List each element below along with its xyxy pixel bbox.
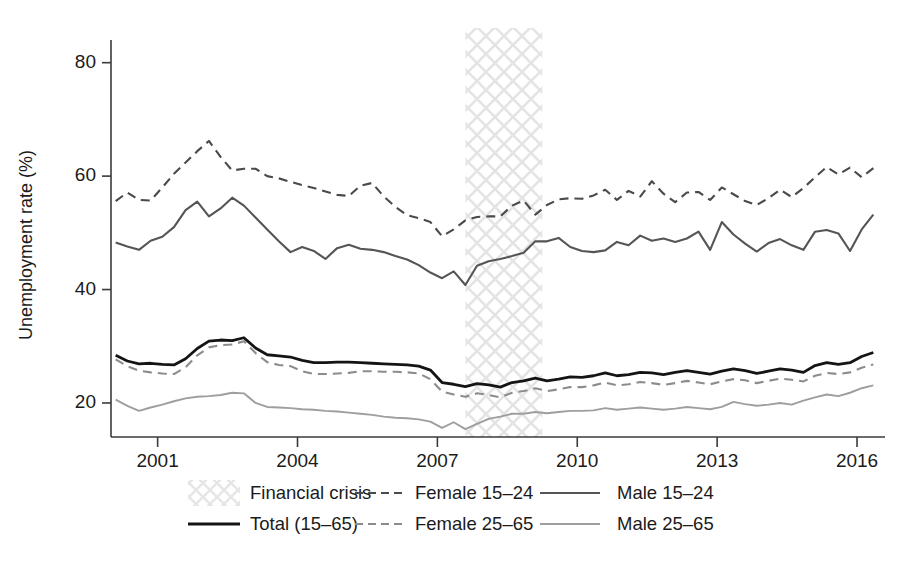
- legend-swatch-financial-crisis: [188, 480, 240, 506]
- x-tick-label-2004: 2004: [276, 450, 319, 471]
- y-tick-label-60: 60: [75, 164, 96, 185]
- x-tick-label-2001: 2001: [136, 450, 178, 471]
- crisis-band-rect: [465, 28, 542, 437]
- x-tick-label-2010: 2010: [556, 450, 598, 471]
- legend-label-female-25-65: Female 25–65: [415, 513, 533, 534]
- legend-label-male-15-24: Male 15–24: [617, 482, 714, 503]
- financial-crisis-band: [465, 28, 542, 437]
- y-axis-title: Unemployment rate (%): [16, 150, 36, 340]
- y-tick-label-80: 80: [75, 51, 96, 72]
- x-tick-label-2016: 2016: [836, 450, 878, 471]
- legend-label-male-25-65: Male 25–65: [617, 513, 714, 534]
- y-tick-label-20: 20: [75, 391, 96, 412]
- legend-label-female-15-24: Female 15–24: [415, 482, 533, 503]
- chart-figure: 20406080 200120042007201020132016 Unempl…: [0, 0, 897, 577]
- unemployment-rate-line-chart: 20406080 200120042007201020132016 Unempl…: [0, 0, 897, 577]
- x-tick-label-2007: 2007: [416, 450, 458, 471]
- legend-label-total-15-65: Total (15–65): [250, 513, 358, 534]
- y-tick-label-40: 40: [75, 278, 96, 299]
- legend-label-financial-crisis: Financial crisis: [250, 482, 371, 503]
- x-tick-label-2013: 2013: [696, 450, 738, 471]
